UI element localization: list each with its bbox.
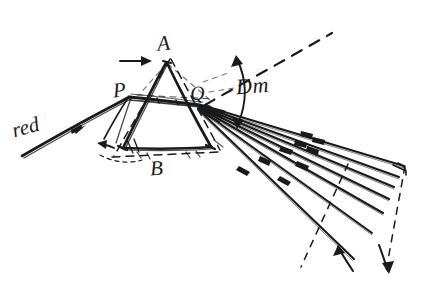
label-apex-a: A: [156, 32, 171, 54]
wavefront-dashed-lines: [301, 164, 405, 271]
label-entry-point-p: P: [112, 79, 127, 101]
bottom-arrow-down: [379, 245, 394, 274]
label-deviation-dm: Dm: [235, 74, 269, 98]
rotation-arrow-apex: [120, 56, 152, 66]
figure-canvas: [0, 0, 426, 290]
label-exit-point-q: Q: [189, 82, 205, 103]
label-base-b: B: [149, 158, 163, 180]
dispersed-ray-fan: [197, 105, 404, 262]
prism-dispersion-figure: A B P Q Dm red: [0, 0, 426, 290]
